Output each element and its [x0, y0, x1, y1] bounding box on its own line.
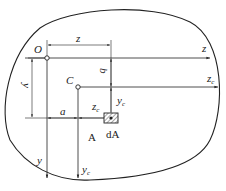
yc-dimension-label: yc [116, 94, 126, 108]
region-label: A [88, 131, 96, 143]
z-dimension-label: z [75, 32, 81, 44]
zc-axis-label: zc [206, 72, 215, 86]
origin-point [45, 56, 49, 60]
element-label: dA [106, 128, 120, 140]
a-dimension-label: a [60, 105, 66, 117]
cross-section-diagram: O C z b y a zc yc z zc y yc A dA [0, 0, 226, 191]
z-axis-label: z [201, 42, 207, 54]
origin-label: O [34, 43, 42, 55]
centroid-point [76, 85, 80, 89]
y-axis-label: y [36, 154, 42, 166]
centroid-label: C [66, 74, 74, 86]
b-dimension-label: b [98, 68, 110, 74]
zc-dimension-label: zc [91, 100, 100, 114]
yc-axis-label: yc [81, 163, 91, 177]
y-dimension-label: y [21, 82, 33, 88]
